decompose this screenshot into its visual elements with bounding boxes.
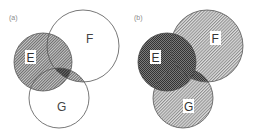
set-g-label-a: G (57, 100, 66, 114)
set-f-label-b: F (212, 32, 219, 46)
panel-b-label: (b) (134, 14, 143, 22)
panel-b: (b) E F G (134, 10, 243, 128)
set-g-label-b: G (184, 100, 193, 114)
panel-a-label: (a) (9, 14, 18, 22)
set-f-label-a: F (86, 32, 93, 46)
venn-figure: (a) E F G (b) (0, 0, 255, 134)
set-e-label-b: E (152, 51, 160, 65)
panel-a: (a) E F G (9, 10, 119, 128)
set-e-label-a: E (27, 51, 35, 65)
